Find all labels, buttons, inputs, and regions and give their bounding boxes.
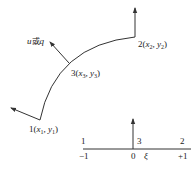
boundary-element-diagram: u或q 2(x2, y2) 3(x3, y3) 1(x1, y1) 1 3 2 … (0, 0, 193, 169)
normal-arrow-node-3 (50, 42, 69, 63)
ref-node-1-label: 1 (81, 136, 86, 146)
node-1-label: 1(x1, y1) (29, 124, 58, 135)
tick-label-plus-1: +1 (178, 151, 188, 161)
flux-label: u或q (27, 36, 45, 46)
node-3-label: 3(x3, y3) (71, 68, 100, 79)
ref-node-2-label: 2 (180, 136, 185, 146)
xi-axis-label: ξ (144, 151, 148, 161)
tick-label-minus-1: −1 (79, 151, 89, 161)
ref-node-3-label: 3 (137, 136, 142, 146)
node-2-label: 2(x2, y2) (138, 39, 167, 50)
normal-arrow-node-1 (11, 108, 40, 120)
curved-boundary-element (40, 37, 135, 120)
tick-label-0: 0 (131, 151, 136, 161)
